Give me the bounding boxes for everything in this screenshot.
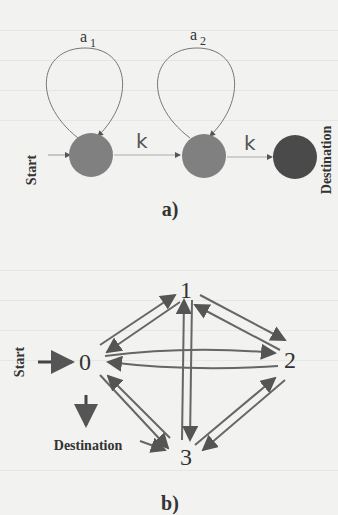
svg-text:k: k bbox=[136, 129, 148, 153]
destination-label-b: Destination bbox=[54, 438, 123, 453]
start-label-b: Start bbox=[12, 347, 27, 378]
destination-label-a: Destination bbox=[319, 126, 334, 195]
svg-text:k: k bbox=[244, 131, 256, 155]
diagram-a: Start a 1 k a 2 k Destination a) bbox=[24, 26, 334, 221]
destination-node-a bbox=[273, 135, 317, 179]
node-3: 3 bbox=[180, 444, 192, 470]
svg-text:2: 2 bbox=[200, 34, 206, 48]
svg-text:1: 1 bbox=[90, 36, 96, 50]
caption-a: a) bbox=[162, 198, 179, 221]
node-1: 1 bbox=[180, 277, 192, 303]
svg-text:a: a bbox=[80, 28, 87, 45]
node-2-a bbox=[182, 134, 226, 178]
svg-text:a: a bbox=[190, 26, 197, 43]
figure: Start a 1 k a 2 k Destination a) bbox=[0, 0, 338, 515]
diagram-b bbox=[38, 295, 285, 450]
caption-b: b) bbox=[161, 492, 179, 515]
node-1-a bbox=[69, 133, 113, 177]
node-2: 2 bbox=[284, 347, 296, 373]
start-label-a: Start bbox=[24, 155, 39, 186]
node-0: 0 bbox=[79, 349, 91, 375]
